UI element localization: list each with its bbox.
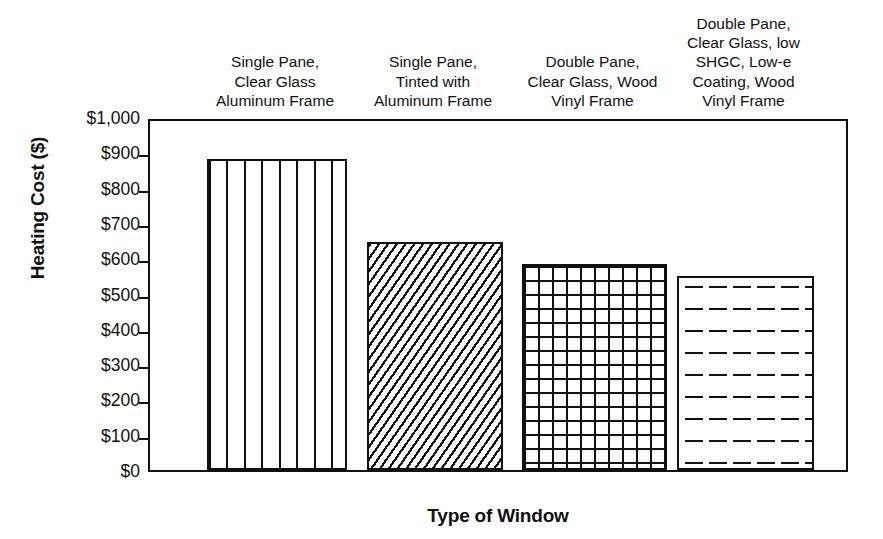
bar-4 bbox=[677, 276, 814, 470]
x-category-label-line: SHGC, Low-e bbox=[651, 52, 837, 71]
y-tick-label: $700 bbox=[58, 216, 140, 234]
x-category-label-line: Aluminum Frame bbox=[340, 91, 526, 110]
x-axis-title: Type of Window bbox=[148, 505, 848, 527]
y-tick-label: $900 bbox=[58, 145, 140, 163]
x-category-label-line: Double Pane, bbox=[651, 14, 837, 33]
y-tick-mark bbox=[139, 438, 150, 440]
x-category-label-line: Tinted with bbox=[340, 72, 526, 91]
y-tick-label: $400 bbox=[58, 322, 140, 340]
y-tick-mark bbox=[139, 402, 150, 404]
y-tick-mark bbox=[139, 155, 150, 157]
y-tick-label: $0 bbox=[58, 463, 140, 481]
y-tick-label: $800 bbox=[58, 181, 140, 199]
y-tick-label: $600 bbox=[58, 251, 140, 269]
y-axis-tick-labels: $0$100$200$300$400$500$600$700$800$900$1… bbox=[58, 0, 140, 539]
x-category-label-4: Double Pane,Clear Glass, lowSHGC, Low-eC… bbox=[651, 14, 837, 110]
x-category-label-line: Vinyl Frame bbox=[651, 91, 837, 110]
y-tick-mark bbox=[139, 191, 150, 193]
y-tick-label: $1,000 bbox=[58, 110, 140, 128]
bar-2 bbox=[367, 242, 503, 470]
bar-3 bbox=[522, 264, 667, 471]
x-category-label-2: Single Pane,Tinted withAluminum Frame bbox=[340, 52, 526, 110]
y-tick-mark bbox=[139, 297, 150, 299]
bar-chart: Heating Cost ($) $0$100$200$300$400$500$… bbox=[0, 0, 883, 539]
x-category-label-line: Clear Glass, low bbox=[651, 33, 837, 52]
bar-1 bbox=[207, 159, 347, 470]
y-tick-mark bbox=[139, 332, 150, 334]
y-tick-label: $200 bbox=[58, 392, 140, 410]
x-category-label-line: Single Pane, bbox=[340, 52, 526, 71]
y-axis-title: Heating Cost ($) bbox=[27, 88, 49, 328]
y-tick-label: $500 bbox=[58, 287, 140, 305]
y-tick-mark bbox=[139, 226, 150, 228]
plot-area bbox=[148, 119, 848, 472]
y-tick-mark bbox=[139, 261, 150, 263]
y-tick-label: $300 bbox=[58, 357, 140, 375]
x-category-label-line: Coating, Wood bbox=[651, 72, 837, 91]
y-tick-mark bbox=[139, 367, 150, 369]
y-tick-label: $100 bbox=[58, 428, 140, 446]
